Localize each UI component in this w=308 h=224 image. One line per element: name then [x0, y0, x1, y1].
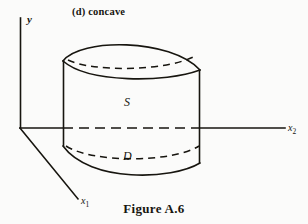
surface-label: S: [124, 96, 130, 108]
surface-top-front-arc: [63, 61, 200, 79]
x2-axis-label-subscript: 2: [292, 127, 296, 136]
figure-a6: (d) concave y x2 x1 S D Figure A.6: [0, 0, 308, 224]
surface-top-dashed-arc: [68, 55, 197, 68]
x1-axis-line: [20, 128, 78, 199]
domain-label: D: [123, 150, 132, 162]
panel-label: (d) concave: [72, 7, 125, 18]
figure-drawing: [0, 0, 308, 224]
y-axis-label: y: [27, 14, 32, 25]
base-back-dashed-arc: [66, 146, 199, 159]
surface-top-back-arc: [63, 45, 200, 70]
figure-caption: Figure A.6: [0, 202, 308, 215]
x2-axis-label: x2: [288, 123, 296, 133]
